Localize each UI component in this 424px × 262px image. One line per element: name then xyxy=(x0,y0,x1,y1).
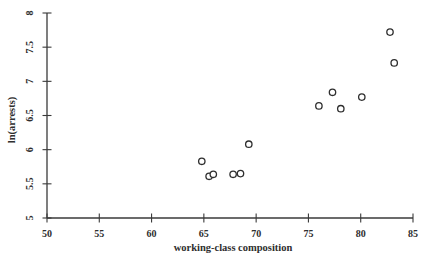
data-point xyxy=(246,141,252,147)
x-tick-label: 85 xyxy=(408,228,418,239)
tick-labels: 505560657075808555.566.577.58 xyxy=(24,11,418,240)
axes xyxy=(47,13,413,218)
x-tick-label: 70 xyxy=(251,228,261,239)
x-tick-label: 65 xyxy=(199,228,209,239)
data-point xyxy=(391,60,397,66)
y-tick-label: 6 xyxy=(24,147,35,152)
x-tick-label: 75 xyxy=(303,228,313,239)
y-tick-label: 5.5 xyxy=(24,178,35,191)
plot-canvas: 505560657075808555.566.577.58 working-cl… xyxy=(0,0,424,262)
y-tick-label: 5 xyxy=(24,216,35,221)
data-point xyxy=(338,106,344,112)
x-tick-label: 55 xyxy=(94,228,104,239)
scatter-plot-figure: 505560657075808555.566.577.58 working-cl… xyxy=(0,0,424,262)
x-tick-label: 80 xyxy=(356,228,366,239)
data-point xyxy=(230,171,236,177)
data-points xyxy=(199,29,398,180)
data-point xyxy=(387,29,393,35)
data-point xyxy=(210,171,216,177)
y-tick-label: 7 xyxy=(24,79,35,84)
y-axis-title: ln(arrests) xyxy=(6,96,18,143)
data-point xyxy=(329,89,335,95)
x-axis-title: working-class composition xyxy=(174,242,293,253)
tick-marks xyxy=(43,13,414,223)
data-point xyxy=(199,158,205,164)
y-tick-label: 8 xyxy=(24,11,35,16)
y-tick-label: 6.5 xyxy=(24,109,35,122)
y-tick-label: 7.5 xyxy=(24,41,35,54)
x-tick-label: 60 xyxy=(147,228,157,239)
data-point xyxy=(237,170,243,176)
x-tick-label: 50 xyxy=(42,228,52,239)
data-point xyxy=(359,94,365,100)
data-point xyxy=(316,103,322,109)
